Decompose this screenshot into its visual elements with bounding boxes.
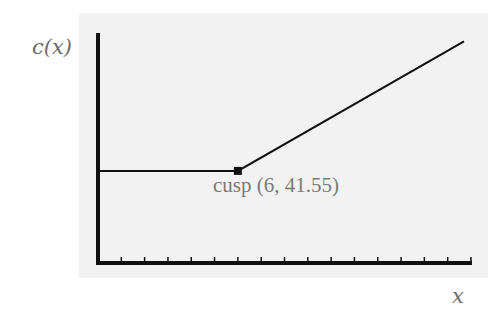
x-axis-label: x: [452, 284, 464, 308]
cusp-annotation: cusp (6, 41.55): [213, 173, 339, 198]
chart-canvas: [0, 0, 500, 317]
axes: [96, 33, 472, 265]
y-axis-label: c(x): [32, 35, 72, 59]
cost-function-line: [98, 41, 464, 171]
